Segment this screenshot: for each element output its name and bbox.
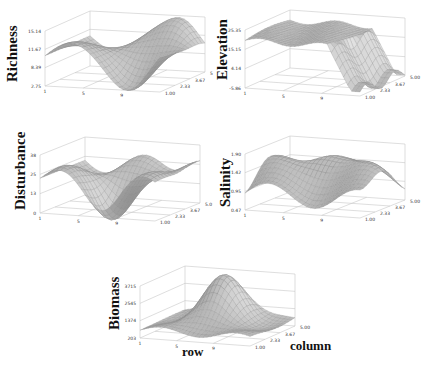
- column-tick-label: 1.00: [160, 220, 170, 225]
- salinity-panel: Salinity 1.901.420.950.471591.002.333.67…: [215, 125, 427, 245]
- row-tick-label: 1: [39, 216, 42, 221]
- column-tick-label: 3.67: [395, 205, 405, 210]
- row-tick-label: 9: [320, 218, 323, 223]
- row-tick-label: 9: [320, 96, 323, 101]
- column-tick-label: 5.00: [300, 325, 310, 330]
- row-tick-label: 9: [120, 93, 123, 98]
- column-tick-label: 2.33: [180, 84, 190, 89]
- z-tick-label: 0.47: [231, 208, 241, 213]
- row-tick-label: 5: [282, 216, 285, 221]
- salinity-surface-plot: 1.901.420.950.471591.002.333.675.00: [215, 125, 427, 245]
- z-tick-label: -5.86: [229, 86, 241, 91]
- z-tick-label: 3715: [125, 284, 137, 289]
- z-tick-label: 1.42: [231, 170, 241, 175]
- z-tick-label: 25.35: [228, 28, 241, 33]
- z-tick-label: 1.90: [231, 152, 241, 157]
- column-tick-label: 3.67: [285, 332, 295, 337]
- column-tick-label: 2.33: [270, 338, 280, 343]
- z-tick-label: 0: [33, 211, 36, 216]
- elevation-panel: Elevation 25.3515.154.14-5.861591.002.33…: [215, 0, 427, 125]
- surface-mesh: [140, 275, 295, 338]
- row-tick-label: 1: [139, 341, 142, 346]
- column-tick-label: 2.33: [175, 214, 185, 219]
- row-tick-label: 5: [77, 219, 80, 224]
- column-tick-label: 3.67: [190, 208, 200, 213]
- row-tick-label: 5: [175, 344, 178, 349]
- column-tick-label: 5: [210, 71, 213, 76]
- column-tick-label: 2.33: [380, 211, 390, 216]
- biomass-panel: Biomass 3715254513742031591.002.333.675.…: [100, 250, 330, 366]
- disturbance-panel: Disturbance 38251301591.002.333.675.0: [0, 125, 215, 245]
- z-tick-label: 8.39: [31, 65, 41, 70]
- z-tick-label: 1374: [125, 318, 137, 323]
- z-tick-label: 38: [30, 153, 36, 158]
- column-tick-label: 3.67: [395, 82, 405, 87]
- richness-panel: Richness 15.1411.678.392.751591.002.333.…: [0, 0, 215, 125]
- column-tick-label: 1.00: [255, 345, 265, 350]
- z-tick-label: 0.95: [231, 189, 241, 194]
- column-tick-label: 1.00: [365, 95, 375, 100]
- column-tick-label: 1.00: [165, 91, 175, 96]
- z-tick-label: 2545: [125, 301, 137, 306]
- row-tick-label: 5: [282, 94, 285, 99]
- z-tick-label: 15.15: [228, 47, 241, 52]
- z-tick-label: 25: [30, 172, 36, 177]
- z-tick-label: 13: [30, 191, 36, 196]
- richness-surface-plot: 15.1411.678.392.751591.002.333.675: [0, 0, 215, 125]
- column-tick-label: 2.33: [380, 88, 390, 93]
- z-tick-label: 4.14: [231, 66, 241, 71]
- elevation-surface-plot: 25.3515.154.14-5.861591.002.333.675.00: [215, 0, 427, 125]
- row-tick-label: 9: [115, 221, 118, 226]
- column-axis-label: column: [290, 338, 331, 354]
- row-tick-label: 1: [44, 89, 47, 94]
- row-axis-label: row: [182, 344, 203, 360]
- column-tick-label: 1.00: [365, 217, 375, 222]
- row-tick-label: 5: [82, 91, 85, 96]
- column-tick-label: 5.00: [410, 75, 420, 80]
- column-tick-label: 5.0: [205, 202, 212, 207]
- z-tick-label: 2.75: [31, 84, 41, 89]
- disturbance-surface-plot: 38251301591.002.333.675.0: [0, 125, 215, 245]
- surface-mesh: [245, 20, 405, 92]
- z-tick-label: 203: [127, 336, 136, 341]
- row-tick-label: 9: [212, 346, 215, 351]
- z-tick-label: 11.67: [28, 47, 41, 52]
- column-tick-label: 5.00: [410, 199, 420, 204]
- row-tick-label: 1: [244, 213, 247, 218]
- column-tick-label: 3.67: [195, 78, 205, 83]
- row-tick-label: 1: [244, 91, 247, 96]
- z-tick-label: 15.14: [28, 29, 41, 34]
